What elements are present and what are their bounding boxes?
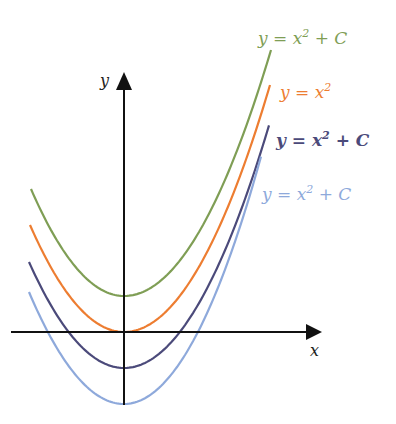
y-axis-arrow-icon [116,72,132,90]
curve-label-blue: y = x2 + C [261,183,351,204]
curve-label-orange: y = x2 [279,81,331,102]
x-axis-arrow-icon [306,324,322,340]
curve-label-green: y = x2 + C [257,27,347,48]
parabola-blue [29,157,261,404]
curve-label-purple: y = x2 + C [275,129,370,150]
y-axis-label: y [99,71,110,90]
parabola-diagram: x y y = x2 + Cy = x2y = x2 + Cy = x2 + C [0,0,396,424]
parabola-green [31,50,271,296]
x-axis-label: x [310,341,319,360]
parabola-orange [30,85,270,332]
